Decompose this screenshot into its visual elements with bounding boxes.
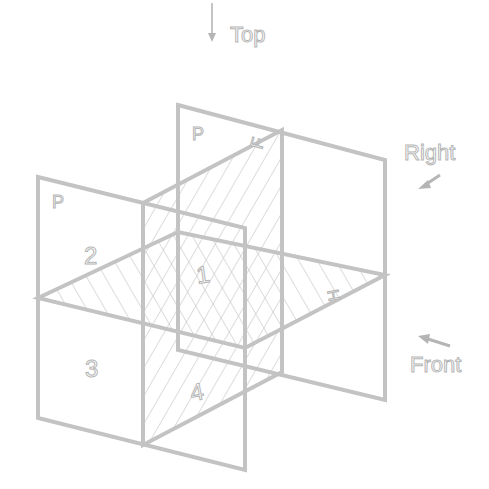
front-label: Front <box>410 352 461 377</box>
back-plane-label: P <box>192 124 204 144</box>
quadrant-3-label: 3 <box>85 355 98 382</box>
left-plane-label: P <box>52 192 64 212</box>
top-direction-indicator: Top <box>208 3 265 47</box>
right-direction-indicator: Right <box>404 140 455 189</box>
front-direction-indicator: Front <box>410 334 461 377</box>
quadrant-2-label: 2 <box>84 242 97 269</box>
right-label: Right <box>404 140 455 165</box>
up-left-arrow-icon <box>418 334 450 346</box>
down-arrow-icon <box>208 3 216 42</box>
top-label: Top <box>230 22 265 47</box>
projection-planes-diagram: Top Right Front P P F H 1 2 3 4 <box>0 0 489 489</box>
down-left-arrow-icon <box>418 175 440 189</box>
